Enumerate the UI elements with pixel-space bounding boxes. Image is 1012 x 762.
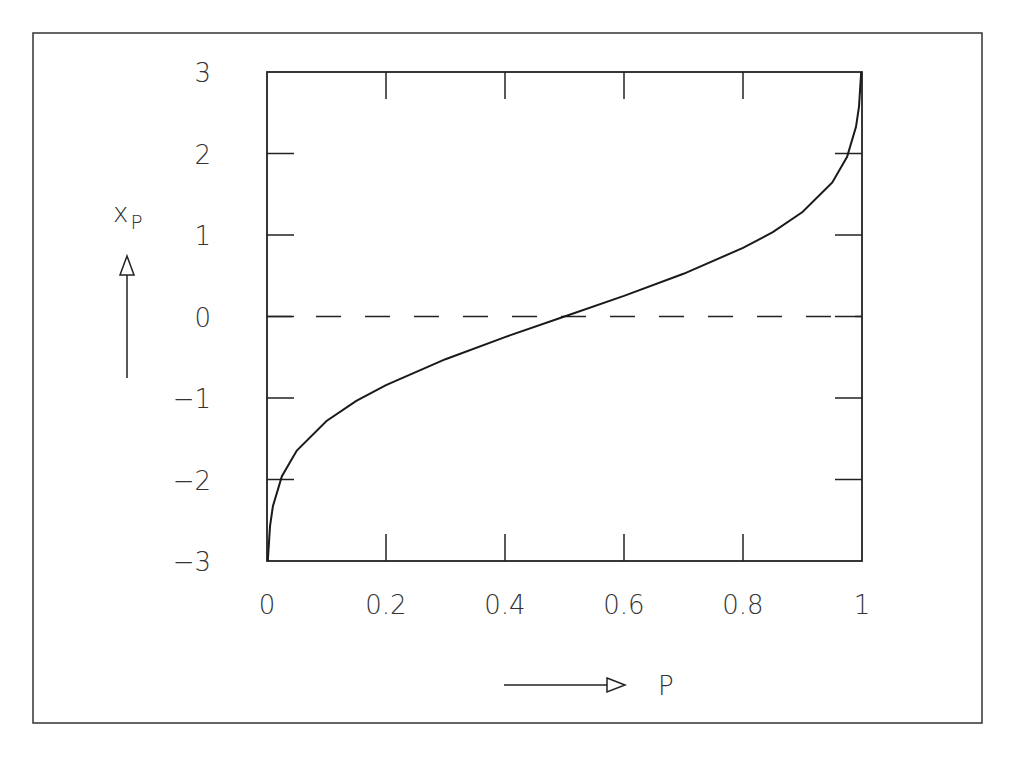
x-tick-label: 0.6 — [603, 590, 644, 620]
y-tick-label: −1 — [173, 384, 211, 414]
x-axis-label: P — [658, 671, 674, 701]
x-tick-label: 0 — [259, 590, 276, 620]
y-tick-label: 0 — [194, 303, 211, 333]
tick-labels: 00.20.40.60.813210−1−2−3 — [173, 58, 871, 620]
y-tick-label: 1 — [194, 221, 211, 251]
x-tick-label: 1 — [854, 590, 871, 620]
x-tick-label: 0.2 — [365, 590, 406, 620]
y-axis-label: xP — [113, 198, 142, 234]
x-tick-label: 0.8 — [722, 590, 763, 620]
y-tick-label: −3 — [173, 547, 211, 577]
y-axis-arrow-icon — [120, 256, 134, 378]
y-tick-label: −2 — [173, 466, 211, 496]
y-tick-label: 2 — [194, 140, 211, 170]
chart-canvas: 00.20.40.60.813210−1−2−3 P xP — [0, 0, 1012, 762]
x-tick-label: 0.4 — [484, 590, 525, 620]
x-axis-arrow-icon — [504, 678, 625, 692]
y-tick-label: 3 — [194, 58, 211, 88]
